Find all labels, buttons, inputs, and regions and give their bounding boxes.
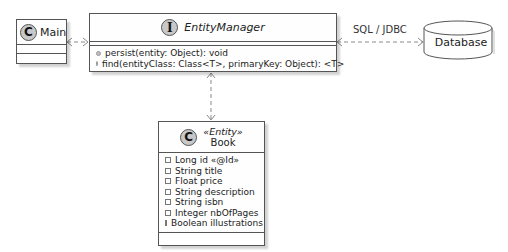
field-row: String title <box>165 166 260 177</box>
private-field-icon <box>165 210 171 216</box>
field-row: String isbn <box>165 197 260 208</box>
database-label: Database <box>433 36 489 49</box>
private-field-icon <box>165 178 171 184</box>
field-label: String description <box>175 187 255 198</box>
interface-name: EntityManager <box>184 21 264 34</box>
private-field-icon <box>165 199 171 205</box>
class-name: Main <box>40 26 66 39</box>
field-label: Boolean illustrations <box>171 218 263 229</box>
private-field-icon <box>165 220 167 226</box>
class-book-fields: Long id «@Id» String title Float price S… <box>159 153 264 233</box>
field-row: Integer nbOfPages <box>165 208 260 219</box>
field-row: Float price <box>165 176 260 187</box>
class-book-methods <box>159 233 264 242</box>
method-label: persist(entity: Object): void <box>105 48 228 59</box>
field-label: Float price <box>175 176 223 187</box>
interface-methods: persist(entity: Object): void find(entit… <box>90 46 336 71</box>
field-label: Long id «@Id» <box>175 155 239 166</box>
field-row: Long id «@Id» <box>165 155 260 166</box>
field-label: String title <box>175 166 222 177</box>
method-row: find(entityClass: Class<T>, primaryKey: … <box>96 59 330 70</box>
class-main[interactable]: C Main <box>16 19 67 64</box>
class-name: Book <box>211 137 236 148</box>
public-method-icon <box>96 61 98 66</box>
class-main-header: C Main <box>17 20 66 45</box>
class-main-fields <box>17 45 66 54</box>
field-label: Integer nbOfPages <box>175 208 258 219</box>
class-book[interactable]: C «Entity» Book Long id «@Id» String tit… <box>158 121 265 246</box>
public-method-icon <box>96 51 101 56</box>
private-field-icon <box>165 157 171 163</box>
interface-entitymanager[interactable]: I EntityManager persist(entity: Object):… <box>89 13 337 72</box>
class-badge-icon: C <box>20 24 37 41</box>
field-label: String isbn <box>175 197 223 208</box>
interface-badge-icon: I <box>161 19 178 36</box>
private-field-icon <box>165 189 171 195</box>
class-book-header: C «Entity» Book <box>159 122 264 153</box>
private-field-icon <box>165 168 171 174</box>
class-badge-icon: C <box>180 129 197 146</box>
link-label-sql-jdbc: SQL / JDBC <box>353 24 407 35</box>
field-row: Boolean illustrations <box>165 218 260 229</box>
class-main-methods <box>17 54 66 63</box>
class-stereotype: «Entity» <box>203 126 242 137</box>
method-row: persist(entity: Object): void <box>96 48 330 59</box>
method-label: find(entityClass: Class<T>, primaryKey: … <box>102 59 344 70</box>
interface-header: I EntityManager <box>90 14 336 42</box>
field-row: String description <box>165 187 260 198</box>
